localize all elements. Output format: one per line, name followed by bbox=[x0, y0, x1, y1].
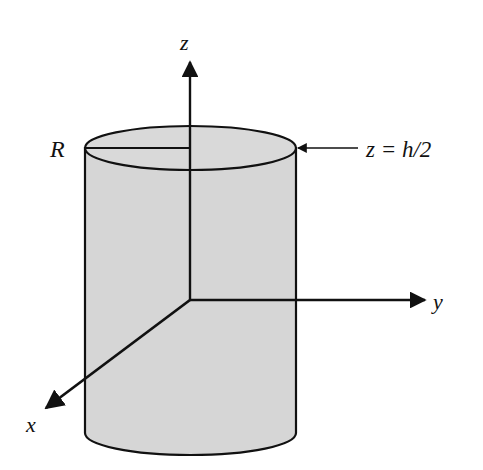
top-plane-label: z = h/2 bbox=[365, 137, 431, 162]
cylinder-diagram: z y x R z = h/2 bbox=[0, 0, 483, 470]
z-axis-label: z bbox=[179, 30, 189, 55]
y-axis-label: y bbox=[431, 289, 443, 314]
x-axis-label: x bbox=[25, 412, 36, 437]
radius-label: R bbox=[49, 136, 65, 162]
